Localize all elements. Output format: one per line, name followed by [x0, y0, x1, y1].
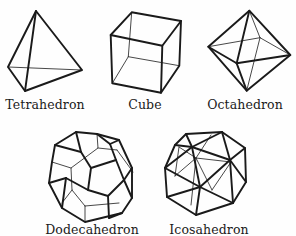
label-octahedron: Octahedron: [207, 97, 283, 112]
icosahedron-drawing: [165, 132, 246, 215]
cube-drawing: [111, 12, 181, 92]
dodecahedron-drawing: [49, 132, 133, 222]
tetrahedron-drawing: [8, 11, 82, 91]
octahedron-drawing: [208, 11, 290, 91]
label-cube: Cube: [128, 97, 161, 112]
platonic-solids-figure: Tetrahedron Cube Octahedron Dodecahedron…: [0, 0, 296, 236]
solids-drawing: [0, 0, 296, 236]
label-tetrahedron: Tetrahedron: [5, 97, 84, 112]
label-icosahedron: Icosahedron: [169, 222, 248, 236]
label-dodecahedron: Dodecahedron: [45, 222, 139, 236]
